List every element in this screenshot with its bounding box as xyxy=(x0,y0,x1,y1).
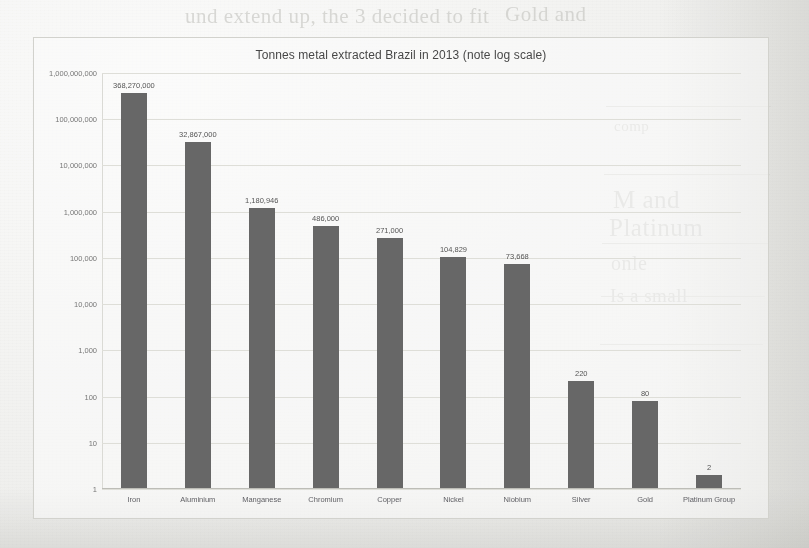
bar-group: 486,000Chromium xyxy=(294,73,358,489)
bar xyxy=(504,264,530,489)
y-axis-tick-label: 10,000 xyxy=(74,300,97,309)
x-axis-category-label: Nickel xyxy=(443,495,463,504)
bar xyxy=(313,226,339,489)
y-axis-tick-label: 1,000,000,000 xyxy=(49,69,97,78)
chart-title: Tonnes metal extracted Brazil in 2013 (n… xyxy=(34,48,768,62)
bar-group: 73,668Niobium xyxy=(485,73,549,489)
plot-area: 1,000,000,000100,000,00010,000,0001,000,… xyxy=(102,73,741,489)
bar-value-label: 1,180,946 xyxy=(245,196,278,205)
bar xyxy=(185,142,211,489)
x-axis-category-label: Gold xyxy=(637,495,653,504)
bar-group: 104,829Nickel xyxy=(422,73,486,489)
bar-value-label: 32,867,000 xyxy=(179,130,217,139)
bar-value-label: 271,000 xyxy=(376,226,403,235)
bar xyxy=(377,238,403,489)
chart-container: Tonnes metal extracted Brazil in 2013 (n… xyxy=(33,37,769,519)
bar-value-label: 104,829 xyxy=(440,245,467,254)
bar xyxy=(632,401,658,489)
gridline xyxy=(102,489,741,490)
y-axis-tick-label: 1,000 xyxy=(78,346,97,355)
y-axis-tick-label: 100 xyxy=(84,392,97,401)
bar xyxy=(440,257,466,489)
x-axis-category-label: Copper xyxy=(377,495,402,504)
bar-group: 368,270,000Iron xyxy=(102,73,166,489)
bar-value-label: 368,270,000 xyxy=(113,81,155,90)
bar-group: 271,000Copper xyxy=(358,73,422,489)
bar-group: 80Gold xyxy=(613,73,677,489)
x-axis-category-label: Aluminium xyxy=(180,495,215,504)
y-axis-tick-label: 10 xyxy=(89,438,97,447)
bar-value-label: 2 xyxy=(707,463,711,472)
bar xyxy=(696,475,722,489)
bar-group: 1,180,946Manganese xyxy=(230,73,294,489)
bar-group: 220Silver xyxy=(549,73,613,489)
bar xyxy=(568,381,594,489)
x-axis-line xyxy=(102,488,741,489)
y-axis-tick-label: 10,000,000 xyxy=(59,161,97,170)
x-axis-category-label: Silver xyxy=(572,495,591,504)
bar-value-label: 80 xyxy=(641,389,649,398)
x-axis-category-label: Platinum Group xyxy=(683,495,735,504)
x-axis-category-label: Iron xyxy=(127,495,140,504)
y-axis-tick-label: 1,000,000 xyxy=(64,207,97,216)
bar xyxy=(249,208,275,489)
bar-value-label: 220 xyxy=(575,369,588,378)
y-axis-tick-label: 100,000 xyxy=(70,253,97,262)
bar-value-label: 486,000 xyxy=(312,214,339,223)
bleed-through-text: und extend up, the 3 decided to fit xyxy=(185,4,489,29)
x-axis-category-label: Manganese xyxy=(242,495,281,504)
x-axis-category-label: Chromium xyxy=(308,495,343,504)
x-axis-category-label: Niobium xyxy=(504,495,532,504)
bar-group: 2Platinum Group xyxy=(677,73,741,489)
bleed-through-text: Gold and xyxy=(505,2,587,27)
bar-group: 32,867,000Aluminium xyxy=(166,73,230,489)
bar-value-label: 73,668 xyxy=(506,252,529,261)
bar xyxy=(121,93,147,489)
y-axis-tick-label: 1 xyxy=(93,485,97,494)
y-axis-tick-label: 100,000,000 xyxy=(55,115,97,124)
